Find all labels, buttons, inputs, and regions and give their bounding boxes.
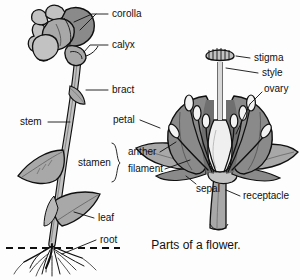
label-bract: bract [112,84,134,95]
label-sepal: sepal [196,183,220,194]
flower-diagram-figure: corolla calyx bract stem leaf root petal… [0,0,300,280]
label-ovary: ovary [264,83,288,94]
label-root: root [100,234,117,245]
stamen-brace [112,143,120,182]
label-filament: filament [128,163,163,174]
plant-leaf-lower [54,192,100,226]
label-stem: stem [20,116,42,127]
label-receptacle: receptacle [243,190,290,201]
plant-flower-head [28,5,98,65]
plant-leaf-upper [18,150,64,183]
figure-caption: Parts of a flower. [151,238,240,252]
flower-receptacle-stalk [208,166,237,230]
label-petal: petal [113,114,135,125]
flower-ovary [208,120,232,172]
label-leaf: leaf [98,212,114,223]
label-calyx: calyx [112,39,135,50]
label-corolla: corolla [112,8,142,19]
leader-stigma [236,56,250,58]
leader-style [226,68,258,73]
label-anther: anther [128,146,157,157]
leader-petal [140,120,160,128]
label-stigma: stigma [254,52,284,63]
label-style: style [262,67,283,78]
leader-receptacle [226,190,240,196]
label-stamen: stamen [78,157,111,168]
